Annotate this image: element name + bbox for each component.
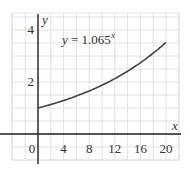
equation-exponent: x — [110, 30, 115, 40]
x-tick-label: 20 — [160, 141, 173, 156]
y-axis-label: y — [40, 12, 48, 27]
x-tick-label: 16 — [134, 141, 148, 156]
y-tick-label: 4 — [28, 22, 35, 37]
exponential-chart: 04812162024 y x y = 1.065x — [0, 0, 190, 169]
x-tick-label: 12 — [108, 141, 121, 156]
x-axis-label: x — [171, 118, 178, 133]
x-tick-label: 8 — [86, 141, 93, 156]
equation-base: = 1.065 — [68, 32, 111, 47]
x-tick-label: 0 — [29, 141, 36, 156]
x-tick-label: 4 — [60, 141, 67, 156]
equation-label: y = 1.065x — [60, 30, 115, 47]
y-tick-label: 2 — [28, 74, 35, 89]
